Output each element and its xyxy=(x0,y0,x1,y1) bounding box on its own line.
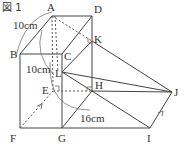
edge-hj xyxy=(92,91,172,92)
point-label-h: H xyxy=(95,79,103,91)
right-angle-marks xyxy=(55,38,92,91)
point-label-i: I xyxy=(147,132,151,144)
measure-ab: 10cm xyxy=(13,19,38,31)
edge-dc xyxy=(62,16,92,54)
point-label-e: E xyxy=(42,84,49,96)
edge-ae xyxy=(52,16,53,91)
cube-diagram: 図 1 A D B C K L E H J F G I 10cm 10cm 16… xyxy=(0,0,185,149)
edge-ak xyxy=(52,16,92,41)
measure-gi: 16cm xyxy=(80,112,105,124)
figure-title: 図 1 xyxy=(2,2,22,13)
point-label-d: D xyxy=(94,3,102,15)
point-label-a: A xyxy=(47,1,55,13)
point-label-j: J xyxy=(174,86,179,98)
right-angle-e xyxy=(55,86,59,91)
point-label-l: L xyxy=(55,67,62,79)
point-label-f: F xyxy=(10,132,16,144)
edge-al xyxy=(55,16,58,72)
edge-ij xyxy=(150,92,172,128)
point-label-k: K xyxy=(94,33,102,45)
edge-fe xyxy=(20,91,53,128)
measure-al: 10cm xyxy=(26,63,51,75)
point-label-g: G xyxy=(58,132,66,144)
point-label-b: B xyxy=(10,48,17,60)
point-label-c: C xyxy=(64,50,71,62)
